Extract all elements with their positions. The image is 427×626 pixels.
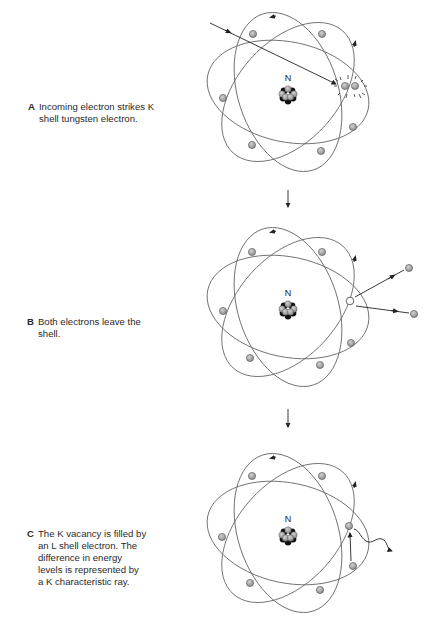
atom-diagrams: N N: [0, 0, 427, 626]
electrons: [219, 248, 354, 368]
panel-b-atom: N: [196, 213, 418, 402]
k-shell-electrons: [334, 75, 367, 98]
nucleus-icon: [279, 301, 297, 320]
k-characteristic-ray: [354, 529, 392, 551]
k-shell-electron: [345, 522, 352, 529]
panel-c-atom: N: [196, 439, 392, 626]
l-to-k-transition-arrow: [350, 533, 351, 561]
nucleus-icon: [279, 86, 297, 105]
nucleus-label-n: N: [285, 288, 292, 298]
nucleus-label-n: N: [285, 514, 292, 524]
ejected-electron-arrow-2: [356, 306, 409, 313]
ejected-electron-2: [410, 310, 417, 317]
electrons: [219, 30, 356, 154]
nucleus-label-n: N: [285, 73, 292, 83]
orbit-rings: [196, 0, 380, 186]
l-shell-electron: [349, 562, 356, 569]
electrons: [218, 472, 325, 593]
ejected-electron-1: [405, 264, 412, 271]
k-shell-vacancy: [346, 297, 354, 305]
nucleus-icon: [279, 527, 297, 546]
ejected-electron-arrow-1: [355, 270, 404, 297]
panel-a-atom: N: [196, 0, 380, 186]
